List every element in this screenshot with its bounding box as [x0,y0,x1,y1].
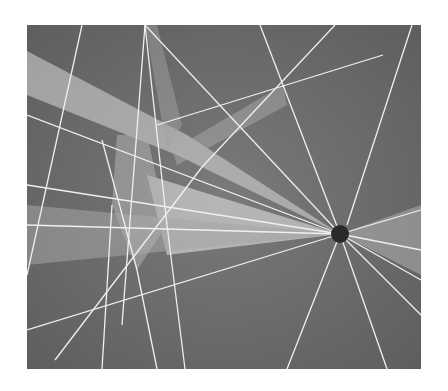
canvas-background [27,25,421,369]
artwork-image [27,25,421,369]
light-rays-drawing [27,25,421,369]
focal-point [331,225,349,243]
